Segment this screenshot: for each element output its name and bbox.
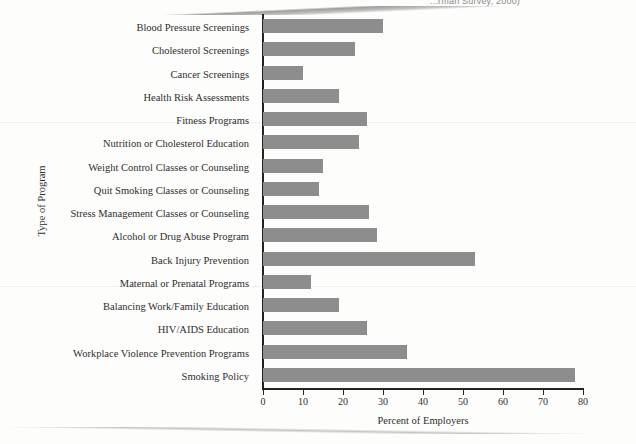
category-label: Smoking Policy (0, 365, 256, 388)
x-axis-title: Percent of Employers (263, 415, 583, 426)
x-axis-tick (303, 390, 304, 395)
bar-row (263, 202, 583, 225)
category-label: Quit Smoking Classes or Counseling (0, 179, 256, 202)
x-axis-tick (543, 390, 544, 395)
bar (263, 205, 369, 219)
x-axis-ticks: 01020304050607080 (263, 390, 583, 412)
category-label: Cholesterol Screenings (0, 39, 256, 62)
bar-row (263, 132, 583, 155)
x-axis-tick (343, 390, 344, 395)
bar (263, 112, 367, 126)
bar (263, 275, 311, 289)
category-label: Health Risk Assessments (0, 86, 256, 109)
bar-row (263, 156, 583, 179)
bar-row (263, 86, 583, 109)
bar (263, 159, 323, 173)
category-label: Nutrition or Cholesterol Education (0, 132, 256, 155)
category-label: Blood Pressure Screenings (0, 16, 256, 39)
bar-row (263, 16, 583, 39)
x-axis-tick-label: 40 (418, 396, 428, 407)
bar (263, 321, 367, 335)
bar (263, 42, 355, 56)
x-axis-tick-label: 80 (578, 396, 588, 407)
category-label: Maternal or Prenatal Programs (0, 272, 256, 295)
bar (263, 298, 339, 312)
category-label: Balancing Work/Family Education (0, 295, 256, 318)
category-label: Workplace Violence Prevention Programs (0, 342, 256, 365)
bar-row (263, 179, 583, 202)
category-label: Weight Control Classes or Counseling (0, 156, 256, 179)
bar-row (263, 318, 583, 341)
x-axis-tick (463, 390, 464, 395)
bar-row (263, 109, 583, 132)
x-axis-tick (383, 390, 384, 395)
x-axis-tick (503, 390, 504, 395)
bar (263, 135, 359, 149)
bar-row (263, 295, 583, 318)
plot-area (263, 16, 583, 388)
bar (263, 19, 383, 33)
category-label: Cancer Screenings (0, 63, 256, 86)
bar-row (263, 365, 583, 388)
bar-row (263, 225, 583, 248)
x-axis-tick-label: 70 (538, 396, 548, 407)
bar (263, 252, 475, 266)
bar-row (263, 39, 583, 62)
x-axis-tick-label: 20 (338, 396, 348, 407)
bar-row (263, 249, 583, 272)
bar (263, 89, 339, 103)
category-label: Fitness Programs (0, 109, 256, 132)
category-label: Stress Management Classes or Counseling (0, 202, 256, 225)
x-axis-tick (583, 390, 584, 395)
x-axis-tick-label: 0 (261, 396, 266, 407)
bar (263, 182, 319, 196)
category-label: Back Injury Prevention (0, 249, 256, 272)
x-axis-tick (423, 390, 424, 395)
x-axis-tick-label: 50 (458, 396, 468, 407)
x-axis-tick-label: 10 (298, 396, 308, 407)
bar (263, 368, 575, 382)
bar (263, 345, 407, 359)
bar-row (263, 63, 583, 86)
y-axis-category-labels: Blood Pressure ScreeningsCholesterol Scr… (0, 16, 256, 388)
horizontal-bar-chart: Type of Program Blood Pressure Screening… (0, 0, 636, 444)
x-axis-tick-label: 30 (378, 396, 388, 407)
category-label: Alcohol or Drug Abuse Program (0, 225, 256, 248)
bar-row (263, 272, 583, 295)
x-axis-tick-label: 60 (498, 396, 508, 407)
x-axis-tick (263, 390, 264, 395)
bar-series (263, 16, 583, 388)
bar-row (263, 342, 583, 365)
category-label: HIV/AIDS Education (0, 318, 256, 341)
bar (263, 228, 377, 242)
bar (263, 66, 303, 80)
